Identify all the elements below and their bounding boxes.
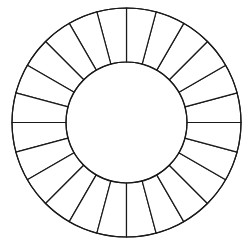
segmented-ring-diagram xyxy=(0,0,247,250)
inner-ring-circle xyxy=(66,62,187,183)
ring-segments xyxy=(12,8,241,237)
